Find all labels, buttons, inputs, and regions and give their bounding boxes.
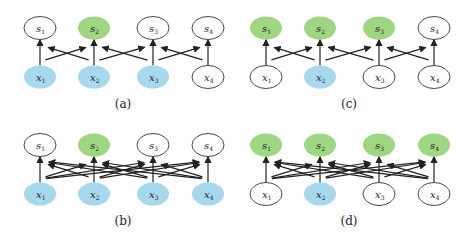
panel-c: s1s2s3s4x1x2x3x4(c) xyxy=(250,17,450,112)
graphical-model-diagram: s1s2s3s4x1x2x3x4(a)s1s2s3s4x1x2x3x4(c)s1… xyxy=(0,0,468,243)
node-s3: s3 xyxy=(363,17,395,40)
node-s4: s4 xyxy=(192,17,224,40)
node-x2: x2 xyxy=(304,183,336,206)
node-x3: x3 xyxy=(137,66,169,89)
panel-caption: (c) xyxy=(341,97,357,111)
edge-x3-to-s4 xyxy=(384,47,425,60)
edge-x3-to-s4 xyxy=(158,47,199,60)
node-s3: s3 xyxy=(137,17,169,40)
node-s3: s3 xyxy=(363,134,395,157)
node-x1: x1 xyxy=(24,183,56,206)
edge-x3-to-s2 xyxy=(102,47,147,60)
edge-x1-to-s2 xyxy=(45,47,85,59)
node-s1: s1 xyxy=(24,134,56,157)
edge-x4-to-s3 xyxy=(387,47,428,60)
edge-x1-to-s2 xyxy=(271,47,311,59)
edge-x3-to-s2 xyxy=(328,47,373,60)
panel-b: s1s2s3s4x1x2x3x4(b) xyxy=(24,134,224,229)
node-x1: x1 xyxy=(24,66,56,89)
node-x2: x2 xyxy=(78,66,110,89)
edge-x2-to-s3 xyxy=(325,47,370,60)
panel-d: s1s2s3s4x1x2x3x4(d) xyxy=(250,134,450,229)
edge-x2-to-s1 xyxy=(48,47,88,59)
node-x3: x3 xyxy=(363,66,395,89)
node-x2: x2 xyxy=(304,66,336,89)
node-s4: s4 xyxy=(418,134,450,157)
node-x4: x4 xyxy=(192,66,224,89)
node-s1: s1 xyxy=(24,17,56,40)
node-x3: x3 xyxy=(137,183,169,206)
edges xyxy=(266,40,434,66)
node-s2: s2 xyxy=(304,134,336,157)
node-s4: s4 xyxy=(192,134,224,157)
node-x1: x1 xyxy=(250,183,282,206)
node-s1: s1 xyxy=(250,17,282,40)
edge-x2-to-s3 xyxy=(99,47,144,60)
node-x4: x4 xyxy=(418,183,450,206)
node-s1: s1 xyxy=(250,134,282,157)
node-x1: x1 xyxy=(250,66,282,89)
edges xyxy=(40,40,208,66)
node-s2: s2 xyxy=(78,134,110,157)
edge-x4-to-s3 xyxy=(161,47,202,60)
node-s4: s4 xyxy=(418,17,450,40)
panel-caption: (a) xyxy=(115,97,132,111)
node-s3: s3 xyxy=(137,134,169,157)
panel-caption: (b) xyxy=(114,214,131,228)
edges xyxy=(40,157,208,183)
node-s2: s2 xyxy=(78,17,110,40)
node-x4: x4 xyxy=(192,183,224,206)
node-x2: x2 xyxy=(78,183,110,206)
edge-x2-to-s1 xyxy=(274,47,314,59)
node-x3: x3 xyxy=(363,183,395,206)
edges xyxy=(266,157,434,183)
node-s2: s2 xyxy=(304,17,336,40)
node-x4: x4 xyxy=(418,66,450,89)
panel-caption: (d) xyxy=(340,214,357,228)
panel-a: s1s2s3s4x1x2x3x4(a) xyxy=(24,17,224,112)
